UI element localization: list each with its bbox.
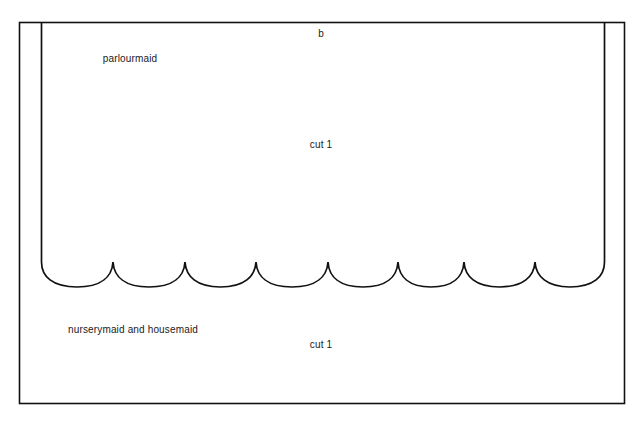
piece-letter-label: b — [318, 28, 324, 40]
upper-cut-instruction-label: cut 1 — [310, 139, 332, 151]
parlourmaid-label: parlourmaid — [103, 53, 157, 65]
lower-cut-instruction-label: cut 1 — [310, 339, 332, 351]
pattern-line-drawing — [0, 0, 643, 424]
pattern-diagram-page: b parlourmaid cut 1 nurserymaid and hous… — [0, 0, 643, 424]
nurserymaid-housemaid-label: nurserymaid and housemaid — [63, 320, 203, 339]
scalloped-hem-edge — [42, 262, 605, 287]
